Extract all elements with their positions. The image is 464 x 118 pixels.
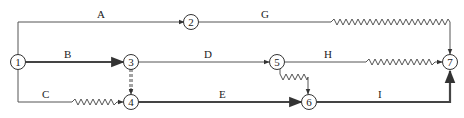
node-5: 5 xyxy=(270,55,285,70)
svg-text:D: D xyxy=(204,48,212,60)
node-1: 1 xyxy=(11,55,26,70)
activity-b: B xyxy=(25,48,123,62)
svg-text:2: 2 xyxy=(188,16,194,28)
activity-c: C xyxy=(18,69,123,105)
svg-text:6: 6 xyxy=(306,96,312,108)
svg-text:7: 7 xyxy=(447,56,453,68)
svg-text:4: 4 xyxy=(128,96,134,108)
svg-text:B: B xyxy=(64,48,71,60)
svg-text:A: A xyxy=(97,8,105,20)
svg-text:E: E xyxy=(219,88,226,100)
svg-text:1: 1 xyxy=(15,56,21,68)
activity-d: D xyxy=(138,48,269,62)
activity-i: I xyxy=(317,71,450,102)
dummy-3-4 xyxy=(130,69,132,94)
node-3: 3 xyxy=(124,55,139,70)
svg-text:I: I xyxy=(378,88,382,100)
svg-text:C: C xyxy=(42,88,49,100)
node-4: 4 xyxy=(124,95,139,110)
svg-text:3: 3 xyxy=(128,56,134,68)
svg-text:H: H xyxy=(324,48,332,60)
node-2: 2 xyxy=(184,15,199,30)
activity-a: A xyxy=(18,8,184,55)
svg-text:G: G xyxy=(261,8,269,20)
network-diagram: A B C D E G H xyxy=(0,0,464,118)
node-6: 6 xyxy=(302,95,317,110)
activity-h: H xyxy=(285,48,442,65)
svg-text:5: 5 xyxy=(274,56,280,68)
node-7: 7 xyxy=(443,55,458,70)
activity-e: E xyxy=(138,88,301,102)
dummy-5-6 xyxy=(280,69,308,94)
